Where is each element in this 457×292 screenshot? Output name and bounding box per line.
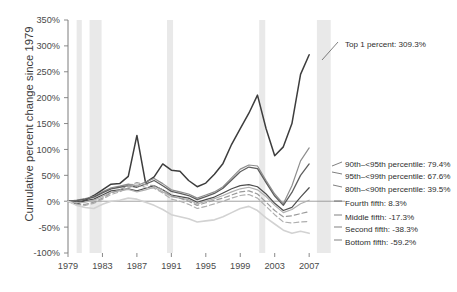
series-end-label: 95th–<99th percentile: 67.6% (345, 172, 451, 181)
series-annotations-group: Top 1 percent: 309.3%90th–<95th percenti… (322, 40, 451, 247)
chart-container: Cumulative percent change since 1979 350… (0, 0, 457, 292)
y-tick-label: 300% (37, 41, 61, 51)
x-tick-label: 1987 (127, 261, 147, 271)
series-end-label: 80th–<90th percentile: 39.5% (345, 185, 451, 194)
annotation-leader-line (333, 185, 342, 187)
x-tick-label: 1983 (92, 261, 112, 271)
series-line (68, 55, 309, 205)
y-tick-label: 150% (37, 119, 61, 129)
x-tick-label: 1999 (230, 261, 250, 271)
recession-bands-group (77, 20, 331, 253)
series-end-label: Bottom fifth: -59.2% (345, 238, 416, 247)
series-end-label: Top 1 percent: 309.3% (345, 40, 426, 49)
x-tick-label: 1995 (196, 261, 216, 271)
x-axis-ticks-group: 19791983198719911995199920032007 (58, 253, 320, 271)
line-chart-plot: 350%300%250%200%150%100%50%0%-50%-100% 1… (0, 0, 457, 292)
series-end-label: Second fifth: -38.3% (345, 225, 418, 234)
x-tick-label: 1979 (58, 261, 78, 271)
x-tick-label: 1991 (161, 261, 181, 271)
y-tick-label: 350% (37, 15, 61, 25)
y-tick-label: 250% (37, 67, 61, 77)
recession-band (317, 20, 331, 253)
series-end-label: 90th–<95th percentile: 79.4% (345, 160, 451, 169)
y-tick-label: -50% (39, 223, 60, 233)
recession-band (167, 20, 173, 253)
y-tick-label: 50% (42, 171, 60, 181)
recession-band (259, 20, 265, 253)
y-tick-label: -100% (33, 248, 60, 258)
y-tick-label: 200% (37, 93, 61, 103)
y-tick-label: 100% (37, 145, 61, 155)
x-tick-label: 2007 (299, 261, 319, 271)
y-axis-ticks-group: 350%300%250%200%150%100%50%0%-50%-100% (33, 15, 68, 258)
series-lines-group (68, 55, 309, 234)
recession-band (77, 20, 82, 253)
series-end-label: Fourth fifth: 8.3% (345, 199, 407, 208)
recession-band (90, 20, 102, 253)
x-tick-label: 2003 (264, 261, 284, 271)
y-tick-label: 0% (47, 197, 60, 207)
annotation-leader-line (332, 172, 342, 174)
annotation-leader-line (332, 162, 342, 166)
series-end-label: Middle fifth: -17.3% (345, 213, 414, 222)
